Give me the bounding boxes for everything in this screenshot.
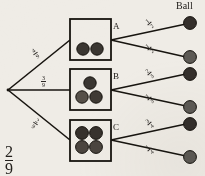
- root-fraction-denominator: 9: [5, 160, 13, 176]
- diagram-canvas: Ball A B C 4 9 3 9 2 9 1 2 1 2 2 3 1 3 3…: [0, 0, 205, 176]
- outcome-ball-b1: [184, 68, 197, 81]
- box-label-a: A: [113, 21, 120, 31]
- box-a-ball-1: [77, 43, 89, 55]
- outcome-ball-c2: [184, 151, 197, 164]
- box-c: [70, 120, 111, 161]
- root-fraction-label: 2 9: [5, 144, 13, 176]
- box-a-ball-2: [91, 43, 103, 55]
- tree-diagram-svg: [0, 0, 205, 176]
- box-label-c: C: [113, 122, 119, 132]
- outcome-ball-b2: [184, 101, 197, 114]
- ball-column-header: Ball: [176, 0, 193, 11]
- prob-root-to-b: 3 9: [41, 75, 46, 88]
- root-fraction-numerator: 2: [5, 144, 13, 160]
- box-c-ball-3: [76, 141, 89, 154]
- outcome-ball-c1: [184, 118, 197, 131]
- prob-root-to-b-denominator: 9: [41, 81, 46, 88]
- box-b-ball-3: [90, 91, 102, 103]
- box-c-ball-1: [76, 127, 89, 140]
- edge-root-to-c: [8, 90, 70, 140]
- box-c-ball-2: [90, 127, 103, 140]
- outcome-ball-a1: [184, 17, 197, 30]
- box-b-ball-1: [84, 77, 96, 89]
- outcome-ball-a2: [184, 51, 197, 64]
- box-label-b: B: [113, 71, 119, 81]
- box-c-ball-4: [90, 141, 103, 154]
- box-a: [70, 19, 111, 60]
- box-b-ball-2: [76, 91, 88, 103]
- edge-root-to-a: [8, 40, 70, 90]
